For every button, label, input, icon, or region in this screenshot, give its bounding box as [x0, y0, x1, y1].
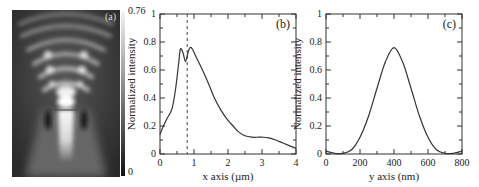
line-charts: 0123400.20.40.60.81x axis (µm)Normalized… [0, 0, 479, 187]
y-tick-label: 0.4 [310, 92, 323, 103]
plot-frame [160, 14, 296, 154]
chart-b: 0123400.20.40.60.81x axis (µm)Normalized… [125, 8, 299, 183]
intensity-curve [160, 47, 296, 148]
chart-c: 020040060080000.20.40.60.81y axis (nm)No… [291, 8, 470, 183]
y-tick-label: 0.2 [310, 120, 323, 131]
x-tick-label: 4 [294, 157, 299, 168]
y-axis-label: Normalized intensity [125, 37, 137, 130]
y-tick-label: 0.8 [310, 36, 323, 47]
plot-frame [326, 14, 462, 154]
y-tick-label: 0 [151, 148, 156, 159]
x-tick-label: 0 [324, 157, 329, 168]
y-axis-label: Normalized intensity [291, 37, 303, 130]
intensity-curve [326, 48, 462, 154]
x-axis-label: y axis (nm) [369, 170, 419, 183]
x-tick-label: 800 [455, 157, 470, 168]
x-tick-label: 3 [260, 157, 265, 168]
x-tick-label: 200 [353, 157, 368, 168]
y-tick-label: 1 [151, 8, 156, 19]
x-tick-label: 600 [421, 157, 436, 168]
x-tick-label: 2 [226, 157, 231, 168]
x-tick-label: 400 [387, 157, 402, 168]
panel-label: (b) [276, 17, 290, 31]
y-tick-label: 0 [317, 148, 322, 159]
panel-label: (c) [443, 17, 456, 31]
x-tick-label: 0 [158, 157, 163, 168]
y-tick-label: 1 [317, 8, 322, 19]
y-tick-label: 0.6 [310, 64, 323, 75]
x-tick-label: 1 [192, 157, 197, 168]
y-tick-label: 0.8 [144, 36, 157, 47]
y-tick-label: 0.6 [144, 64, 157, 75]
y-tick-label: 0.2 [144, 120, 157, 131]
y-tick-label: 0.4 [144, 92, 157, 103]
x-axis-label: x axis (µm) [203, 170, 254, 183]
